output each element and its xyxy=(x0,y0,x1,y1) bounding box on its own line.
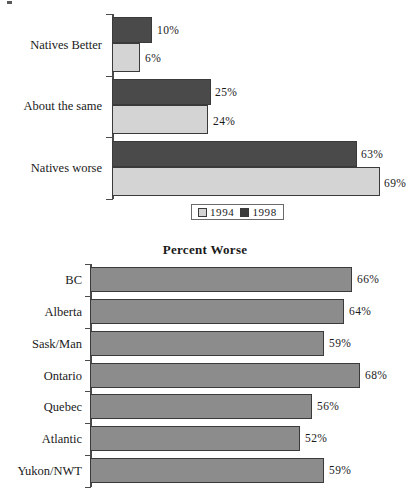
chart1-tick xyxy=(106,199,113,200)
chart2-tick xyxy=(85,360,91,361)
chart-perceptions-change: Natives Better About the same Natives wo… xyxy=(0,0,410,230)
chart2-tick xyxy=(85,487,91,488)
chart1-value-label: 69% xyxy=(384,178,406,190)
chart2-tick xyxy=(85,264,91,265)
chart2-value-label: 59% xyxy=(329,465,351,477)
chart1-tick xyxy=(106,76,113,77)
chart2-category-label: Sask/Man xyxy=(0,338,82,351)
chart2-category-label: Quebec xyxy=(0,401,82,414)
chart2-bar xyxy=(90,299,344,324)
chart1-value-label: 63% xyxy=(361,149,383,161)
chart1-legend: 1994 1998 xyxy=(191,204,284,220)
chart1-value-label: 25% xyxy=(215,87,237,99)
chart2-value-label: 56% xyxy=(317,401,339,413)
chart1-bar-1998 xyxy=(112,141,357,167)
chart1-bar-1998 xyxy=(112,79,211,105)
chart1-tick xyxy=(106,14,113,15)
chart2-category-label: BC xyxy=(0,274,82,287)
chart1-bar-1994 xyxy=(112,167,380,196)
chart2-bar xyxy=(90,363,360,388)
chart2-bar xyxy=(90,394,312,419)
chart-percent-worse-by-region: Percent Worse BC 66% Alberta 64% Sask/Ma… xyxy=(0,230,410,498)
chart1-category-label: Natives Better xyxy=(0,39,102,52)
chart2-value-label: 59% xyxy=(329,338,351,350)
chart2-value-label: 52% xyxy=(305,433,327,445)
legend-item-1998: 1998 xyxy=(240,206,276,218)
chart1-bar-1994 xyxy=(112,105,208,134)
chart2-tick xyxy=(85,391,91,392)
chart2-bar xyxy=(90,267,352,292)
legend-swatch-1994-icon xyxy=(198,208,207,217)
chart2-tick xyxy=(85,455,91,456)
chart1-bar-1994 xyxy=(112,43,140,72)
chart2-title: Percent Worse xyxy=(0,242,410,258)
chart2-category-label: Alberta xyxy=(0,306,82,319)
chart2-tick xyxy=(85,296,91,297)
chart1-value-label: 10% xyxy=(157,25,179,37)
legend-label-1994: 1994 xyxy=(210,206,234,218)
chart1-bar-1998 xyxy=(112,17,152,43)
chart1-value-label: 24% xyxy=(213,116,235,128)
chart2-value-label: 66% xyxy=(357,274,379,286)
chart2-bar xyxy=(90,426,300,451)
chart1-category-label: Natives worse xyxy=(0,162,102,175)
chart2-value-label: 68% xyxy=(365,370,387,382)
chart2-tick xyxy=(85,423,91,424)
chart2-category-label: Ontario xyxy=(0,370,82,383)
chart2-bar xyxy=(90,458,324,483)
legend-swatch-1998-icon xyxy=(240,208,249,217)
chart2-category-label: Yukon/NWT xyxy=(0,465,82,478)
chart1-value-label: 6% xyxy=(145,53,161,65)
legend-item-1994: 1994 xyxy=(198,206,234,218)
chart2-category-label: Atlantic xyxy=(0,433,82,446)
chart2-bar xyxy=(90,331,324,356)
chart2-value-label: 64% xyxy=(349,306,371,318)
legend-label-1998: 1998 xyxy=(252,206,276,218)
chart1-category-label: About the same xyxy=(0,100,102,113)
chart1-tick xyxy=(106,137,113,138)
chart2-tick xyxy=(85,328,91,329)
